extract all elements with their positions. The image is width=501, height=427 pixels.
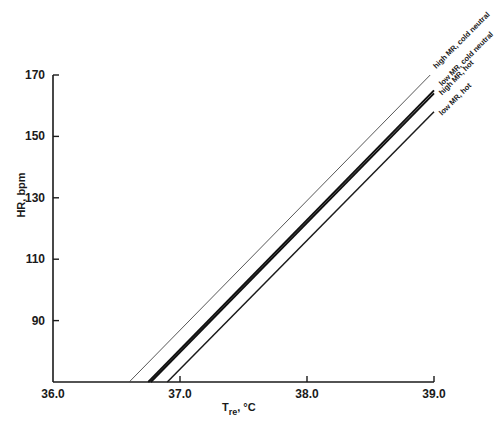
y-tick-label: 150 — [25, 129, 45, 143]
series-line-low-mr-cold-neutral — [148, 90, 434, 382]
x-tick-label: 37.0 — [168, 387, 192, 401]
axes — [53, 75, 434, 382]
y-axis-title: HR, bpm — [15, 172, 27, 217]
x-axis-title: Tre, °C — [222, 401, 256, 417]
series-line-high-mr-cold-neutral — [129, 75, 430, 382]
chart-canvas: 36.037.038.039.0 90110130150170 high MR,… — [0, 0, 501, 427]
x-axis-title-unit: , °C — [237, 401, 256, 413]
y-tick-label: 110 — [26, 252, 46, 266]
y-tick-label: 170 — [25, 68, 45, 82]
x-tick-label: 36.0 — [41, 387, 65, 401]
x-axis-title-sub: re — [229, 407, 238, 417]
series-line-low-mr-hot — [167, 112, 434, 382]
series-lines — [129, 75, 434, 382]
x-ticks: 36.037.038.039.0 — [41, 376, 446, 401]
series-labels: high MR, cold neutrallow MR, cold neutra… — [431, 10, 495, 117]
series-line-high-mr-hot — [151, 93, 434, 382]
y-tick-label: 90 — [32, 314, 46, 328]
x-tick-label: 39.0 — [422, 387, 446, 401]
y-ticks: 90110130150170 — [25, 68, 59, 328]
x-tick-label: 38.0 — [295, 387, 319, 401]
y-tick-label: 130 — [25, 191, 45, 205]
svg-text:Tre, °C: Tre, °C — [222, 401, 256, 417]
